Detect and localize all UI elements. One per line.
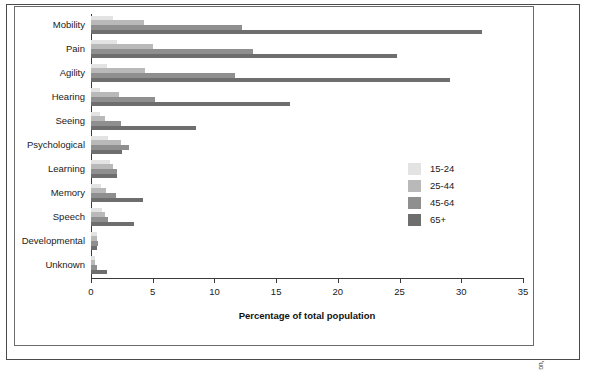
legend-label: 25-44 [430,180,454,191]
x-axis-tick-label: 0 [88,286,93,297]
legend-label: 65+ [430,214,446,225]
bar [91,102,290,107]
x-axis-tick [523,278,524,283]
x-axis-tick [338,278,339,283]
category-label-memory: Memory [0,187,85,198]
x-axis-tick-label: 5 [150,286,155,297]
bar [91,222,134,227]
x-axis-tick [214,278,215,283]
category-label-unknown: Unknown [0,259,85,270]
legend-item: 65+ [408,211,454,228]
bar [91,30,482,35]
bar [91,126,196,131]
legend-swatch-icon [408,197,421,209]
bar [91,246,97,251]
x-axis-tick-label: 30 [456,286,467,297]
category-label-speech: Speech [0,211,85,222]
legend-swatch-icon [408,180,421,192]
x-axis-title: Percentage of total population [91,310,523,321]
x-axis-tick [400,278,401,283]
x-axis-line [91,278,524,279]
bar [91,174,117,179]
category-label-seeing: Seeing [0,115,85,126]
legend-swatch-icon [408,163,421,175]
legend-label: 45-64 [430,197,454,208]
category-label-hearing: Hearing [0,91,85,102]
legend-item: 15-24 [408,160,454,177]
bar [91,198,143,203]
category-label-agility: Agility [0,67,85,78]
legend-item: 45-64 [408,194,454,211]
x-axis-tick-label: 35 [518,286,529,297]
legend-swatch-icon [408,214,421,226]
x-axis-tick-label: 20 [333,286,344,297]
category-label-learning: Learning [0,163,85,174]
x-axis-tick [153,278,154,283]
legend-label: 15-24 [430,163,454,174]
category-label-pain: Pain [0,43,85,54]
bar [91,270,107,275]
legend: 15-2425-4445-6465+ [408,160,454,228]
x-axis-tick-label: 10 [209,286,220,297]
category-label-psychological: Psychological [0,139,85,150]
legend-item: 25-44 [408,177,454,194]
x-axis-tick [91,278,92,283]
source-note: Source: Statistics Canada, Participation… [537,330,552,370]
figure: 05101520253035 MobilityPainAgilityHearin… [0,0,593,370]
bar [91,78,450,83]
x-axis-tick [461,278,462,283]
x-axis-tick-label: 25 [394,286,405,297]
source-note-wrap: Source: Statistics Canada, Participation… [552,330,566,370]
x-axis-tick [276,278,277,283]
category-label-developmental: Developmental [0,235,85,246]
bar [91,150,122,155]
bar [91,54,397,59]
category-label-mobility: Mobility [0,19,85,30]
x-axis-tick-label: 15 [271,286,282,297]
